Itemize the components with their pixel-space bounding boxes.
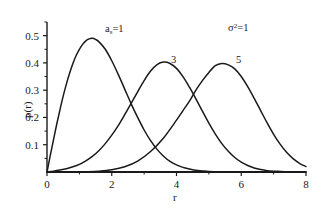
chart-figure: p(r) r as=1 3 5 σ2=1 0.10.20.30.40.50246… — [0, 0, 330, 211]
y-tick-label: 0.1 — [5, 140, 39, 151]
curve-label-as1: as=1 — [105, 24, 124, 36]
y-tick-label: 0.3 — [5, 85, 39, 96]
data-curve-5 — [47, 63, 306, 172]
curve-label-5: 5 — [236, 55, 241, 66]
y-tick-label: 0.4 — [5, 58, 39, 69]
x-tick-label: 6 — [226, 179, 256, 190]
data-curve-1 — [47, 38, 306, 172]
data-curves — [47, 38, 306, 172]
x-tick-label: 0 — [32, 179, 62, 190]
curve-label-3: 3 — [171, 55, 176, 66]
sigma-squared-annotation: σ2=1 — [228, 23, 248, 34]
y-tick-label: 0.5 — [5, 31, 39, 42]
x-tick-label: 4 — [162, 179, 192, 190]
y-tick-label: 0.2 — [5, 112, 39, 123]
x-axis-title: r — [173, 192, 177, 203]
x-tick-label: 2 — [97, 179, 127, 190]
data-curve-3 — [47, 62, 306, 172]
x-tick-label: 8 — [291, 179, 321, 190]
